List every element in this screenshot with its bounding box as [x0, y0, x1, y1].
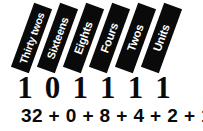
binary-digit: 0: [42, 72, 64, 103]
binary-digit: 1: [124, 72, 146, 103]
binary-digit: 1: [152, 72, 174, 103]
binary-place-value-figure: Thirty twos Sixteens Eights Fours Twos U…: [0, 0, 203, 131]
binary-digit: 1: [69, 72, 91, 103]
binary-digit: 1: [97, 72, 119, 103]
place-value-label-eights: Eights: [72, 20, 94, 56]
binary-digit-row: 1 0 1 1 1 1: [14, 72, 174, 103]
place-value-bar-row: Thirty twos Sixteens Eights Fours Twos U…: [0, 0, 203, 78]
place-value-label-fours: Fours: [99, 21, 120, 54]
place-value-label-twos: Twos: [125, 23, 145, 53]
sum-equation: 32 + 0 + 8 + 4 + 2 + 1 = 47: [21, 106, 203, 125]
binary-digit: 1: [14, 72, 36, 103]
place-value-label-units: Units: [151, 23, 171, 53]
